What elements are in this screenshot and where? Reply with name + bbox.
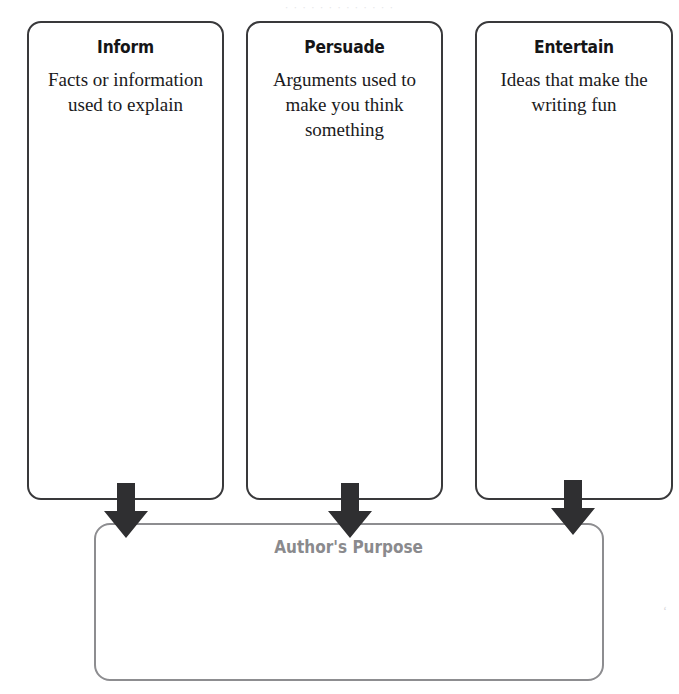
category-description-persuade: Arguments used to make you think somethi… xyxy=(248,67,441,142)
page-bleedthrough-text: · · · · · · · · · · · · · xyxy=(0,0,679,14)
category-description-entertain: Ideas that make the writing fun xyxy=(477,67,671,117)
category-title-entertain: Entertain xyxy=(491,36,658,58)
arrow-down-icon-entertain xyxy=(550,480,596,536)
category-title-persuade: Persuade xyxy=(262,36,428,58)
result-title-text: Author's Purpose xyxy=(275,536,424,558)
category-title-inform: Inform xyxy=(43,36,209,58)
arrow-down-icon-persuade xyxy=(327,483,373,539)
result-title: Author's Purpose xyxy=(94,536,604,558)
category-description-inform: Facts or information used to explain xyxy=(29,67,222,117)
page-corner-mark: ʻ xyxy=(663,604,673,616)
category-box-persuade[interactable]: Persuade Arguments used to make you thin… xyxy=(246,21,443,500)
category-box-inform[interactable]: Inform Facts or information used to expl… xyxy=(27,21,224,500)
arrow-down-icon-inform xyxy=(103,483,149,539)
category-box-entertain[interactable]: Entertain Ideas that make the writing fu… xyxy=(475,21,673,500)
graphic-organizer-canvas: · · · · · · · · · · · · · Inform Facts o… xyxy=(0,0,679,694)
